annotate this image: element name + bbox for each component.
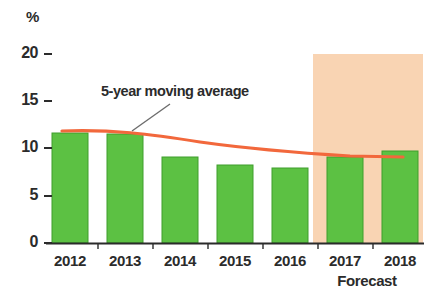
bar-2013 [107, 134, 143, 243]
x-tick-label-2015: 2015 [207, 252, 263, 269]
bar-2018 [382, 151, 418, 243]
x-tick-label-2013: 2013 [97, 252, 153, 269]
y-tick-label-20: 20 [4, 44, 38, 62]
bar-2016 [272, 168, 308, 243]
y-tick-label-5: 5 [4, 186, 38, 204]
x-tick-label-2012: 2012 [42, 252, 98, 269]
x-tick-label-2014: 2014 [152, 252, 208, 269]
y-tick-label-10: 10 [4, 138, 38, 156]
bar-2012 [52, 133, 88, 243]
x-axis-ticks [98, 244, 373, 249]
y-axis-ticks [44, 54, 52, 243]
annotation-leader-line [132, 104, 170, 131]
x-tick-label-2017: 2017 [317, 252, 373, 269]
moving-average-annotation-label: 5-year moving average [101, 83, 249, 99]
bar-2015 [217, 165, 253, 243]
chart-canvas [0, 0, 425, 294]
forecast-region-label: Forecast [317, 272, 417, 289]
x-tick-label-2018: 2018 [372, 252, 425, 269]
y-axis-unit-label: % [26, 8, 39, 25]
y-tick-label-15: 15 [4, 91, 38, 109]
bar-2014 [162, 157, 198, 243]
chart-container: % 20 15 10 5 0 2012 2013 2014 2015 2016 … [0, 0, 425, 294]
bar-2017 [327, 157, 363, 243]
y-tick-label-0: 0 [4, 233, 38, 251]
x-tick-label-2016: 2016 [262, 252, 318, 269]
